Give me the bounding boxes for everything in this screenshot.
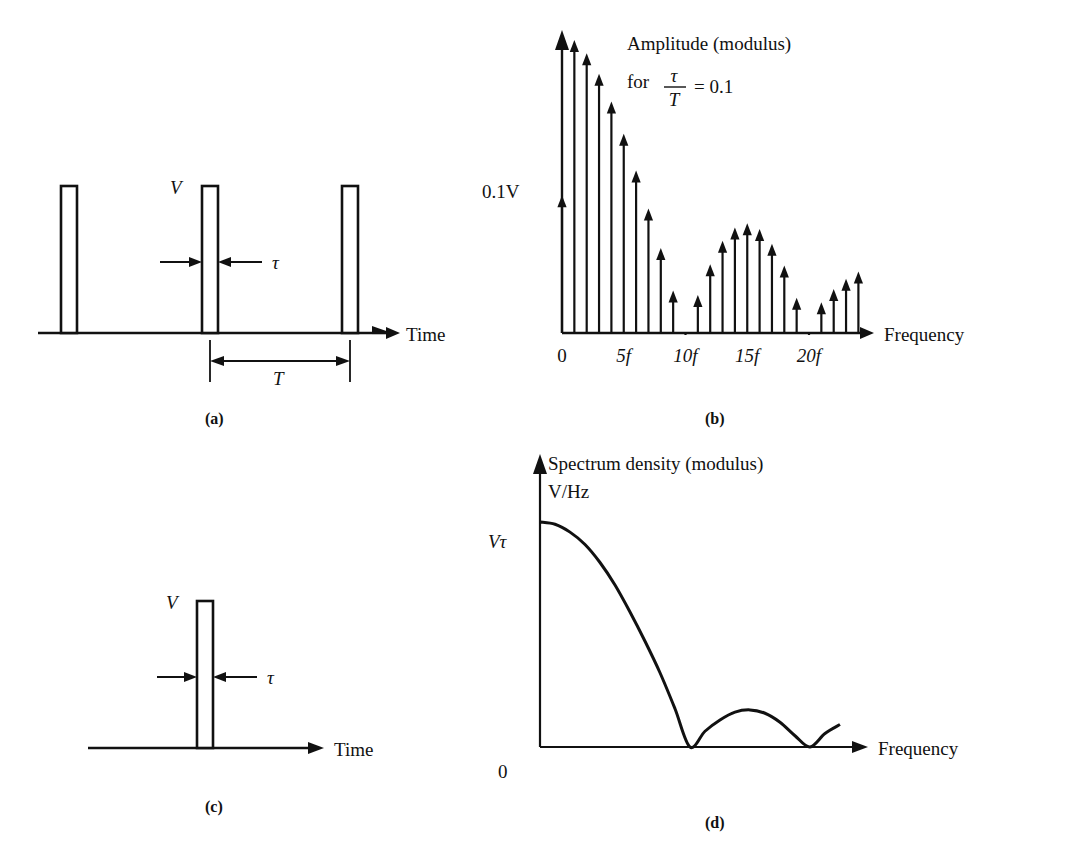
y-axis-label-d: Vτ: [488, 531, 508, 552]
spectral-line-arrowhead: [718, 241, 727, 253]
spectral-line-arrowhead: [619, 134, 628, 146]
pulse-1: [61, 186, 77, 333]
panel-b-title-line1: Amplitude (modulus): [627, 33, 791, 55]
spectral-line-arrowhead: [730, 228, 739, 240]
spectral-line-arrowhead: [582, 53, 591, 65]
pulse-single: [197, 601, 213, 748]
caption-c: (c): [205, 798, 223, 816]
fraction-numerator: τ: [671, 65, 679, 86]
spectral-line-arrowhead: [841, 279, 850, 291]
spectral-line-arrowhead: [607, 102, 616, 114]
x-axis-d: [540, 741, 868, 753]
spectral-line-arrowhead: [669, 291, 678, 303]
panel-d-figure: Spectrum density (modulus) V/Hz Vτ 0 Fre…: [460, 430, 1088, 844]
panel-d: Spectrum density (modulus) V/Hz Vτ 0 Fre…: [460, 430, 1088, 844]
panel-d-title-line1: Spectrum density (modulus): [548, 453, 763, 475]
caption-d: (d): [705, 814, 725, 832]
panel-a: Time V τ T (a): [0, 0, 500, 440]
spectral-line-arrowhead: [743, 223, 752, 235]
spectral-line-arrowhead: [792, 298, 801, 310]
spectral-line-arrowhead: [693, 295, 702, 307]
amplitude-label-c: V: [166, 592, 180, 613]
x-axis-label-d: Frequency: [878, 738, 959, 759]
x-tick-label: 10f: [673, 345, 700, 366]
x-tick-label: 5f: [616, 345, 634, 366]
panel-c: Time V τ (c): [0, 430, 500, 844]
pulse-3: [342, 186, 358, 333]
y-axis-d: [533, 454, 547, 747]
x-axis-label-b: Frequency: [884, 324, 965, 345]
spectral-line-arrowhead: [854, 271, 863, 283]
caption-b: (b): [705, 410, 725, 428]
origin-label-d: 0: [498, 761, 508, 782]
spectral-line-arrowhead: [656, 248, 665, 260]
tau-over-T-fraction: τ T: [664, 65, 686, 110]
x-tick-label: 15f: [735, 345, 762, 366]
caption-a: (a): [205, 410, 224, 428]
panel-b: Amplitude (modulus) for τ T = 0.1 0.1V F…: [460, 0, 1088, 440]
x-tick-label: 0: [557, 345, 567, 366]
spectral-line-arrowhead: [767, 244, 776, 256]
spectral-line-arrowhead: [817, 302, 826, 314]
tau-label-a: τ: [272, 252, 280, 273]
spectral-line-arrowhead: [570, 40, 579, 52]
panel-b-title-prefix: for: [627, 71, 650, 92]
spectral-line-arrowhead: [644, 208, 653, 220]
spectral-line-arrowhead: [632, 170, 641, 182]
sinc-envelope-curve: [540, 522, 840, 748]
spectral-line-arrowhead: [829, 289, 838, 301]
panel-b-title-equals: = 0.1: [694, 76, 733, 97]
panel-c-figure: Time V τ (c): [0, 430, 500, 844]
spectral-line-arrowhead: [557, 195, 566, 207]
spectral-line-arrowhead: [706, 264, 715, 276]
amplitude-label-a: V: [170, 177, 184, 198]
period-label-a: T: [273, 368, 285, 389]
x-tick-label-group: 05f10f15f20f: [557, 345, 824, 366]
panel-a-figure: Time V τ T (a): [0, 0, 500, 440]
time-axis-label-a: Time: [406, 324, 445, 345]
spectral-line-arrowhead: [755, 229, 764, 241]
panel-b-figure: Amplitude (modulus) for τ T = 0.1 0.1V F…: [460, 0, 1088, 440]
tau-label-c: τ: [267, 667, 275, 688]
time-axis-label-c: Time: [334, 739, 373, 760]
spectral-line-arrowhead: [594, 74, 603, 86]
spectral-line-arrowhead: [780, 266, 789, 278]
fraction-denominator: T: [669, 89, 681, 110]
panel-d-title-line2: V/Hz: [548, 481, 589, 502]
x-axis-b: [562, 327, 874, 339]
pulse-2: [202, 186, 218, 333]
x-tick-label: 20f: [797, 345, 824, 366]
y-axis-label-b: 0.1V: [482, 181, 520, 202]
